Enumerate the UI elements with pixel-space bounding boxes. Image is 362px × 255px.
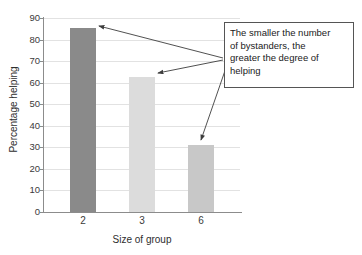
plot-area [44, 18, 240, 212]
bar [129, 77, 155, 212]
y-tick-label: 40 [16, 121, 40, 131]
y-tick-mark [40, 212, 44, 213]
annotation-textbox: The smaller the number of bystanders, th… [224, 22, 354, 88]
bar [70, 28, 96, 212]
bar-chart: Percentage helping 0102030405060708090 2… [0, 0, 362, 255]
x-tick-label: 6 [181, 216, 221, 226]
x-tick-label: 2 [63, 216, 103, 226]
y-tick-label: 90 [16, 13, 40, 23]
y-tick-label: 20 [16, 164, 40, 174]
y-tick-label: 0 [16, 207, 40, 217]
y-tick-label: 10 [16, 185, 40, 195]
x-axis-title: Size of group [44, 234, 240, 245]
annotation-line-4: helping [230, 65, 348, 78]
bar [188, 145, 214, 212]
y-tick-label: 70 [16, 56, 40, 66]
annotation-line-1: The smaller the number [230, 27, 348, 40]
annotation-line-2: of bystanders, the [230, 40, 348, 53]
annotation-line-3: greater the degree of [230, 52, 348, 65]
y-tick-label: 60 [16, 78, 40, 88]
y-tick-label: 80 [16, 35, 40, 45]
y-tick-label: 30 [16, 142, 40, 152]
y-tick-label: 50 [16, 99, 40, 109]
x-axis-line [43, 212, 242, 213]
x-tick-label: 3 [122, 216, 162, 226]
